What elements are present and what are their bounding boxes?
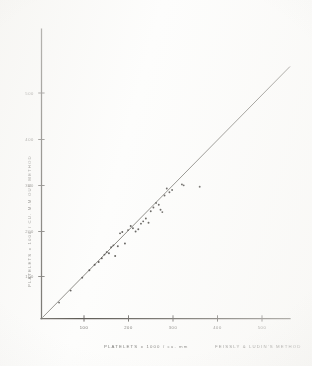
x-tick-label-200: 200 [117,325,141,330]
data-point [132,227,134,229]
data-point [199,186,201,188]
data-point [152,207,154,209]
x-tick-label-300: 300 [161,325,185,330]
identity-line [43,67,291,318]
data-point [171,189,173,191]
data-point [104,254,106,256]
data-point [117,245,119,247]
data-point [130,225,132,227]
data-point [148,222,150,224]
data-point [112,244,114,246]
plot-canvas [0,0,312,366]
data-point [101,257,103,259]
data-point [114,255,116,257]
data-point [166,188,168,190]
data-point [81,277,83,279]
x-tick-label-500: 500 [250,325,274,330]
data-point [106,251,108,253]
data-point [119,232,121,234]
scatter-points [58,183,201,303]
data-point [98,261,100,263]
data-point [88,269,90,271]
x-tick-label-100: 100 [72,325,96,330]
data-point [110,246,112,248]
data-point [124,243,126,245]
data-point [58,302,60,304]
data-point [181,183,183,185]
data-point [108,252,110,254]
data-point [135,231,137,233]
data-point [137,228,139,230]
data-point [94,264,96,266]
x-axis-title-main: PLATELETS x 1000 / cu. mm [104,344,189,349]
data-point [150,210,152,212]
data-point [183,184,185,186]
data-point [155,202,157,204]
data-point [161,211,163,213]
x-tick-label-400: 400 [206,325,230,330]
scanned-figure: 500 400 300 200 100 100 200 300 400 500 … [0,0,312,366]
data-point [142,220,144,222]
data-point [140,223,142,225]
y-axis-title: PLATELETS x 1000 / CU. M.M OUR METHOD [27,155,32,287]
data-point [164,195,166,197]
data-point [158,204,160,206]
y-tick-label-500: 500 [12,91,34,96]
data-point [70,290,72,292]
data-point [127,229,129,231]
data-point [145,218,147,220]
data-point [160,209,162,211]
y-tick-label-400: 400 [12,137,34,142]
data-point [168,191,170,193]
data-point [121,231,123,233]
x-axis-title-method: FEISSLY & LUDIN'S METHOD [215,344,302,349]
